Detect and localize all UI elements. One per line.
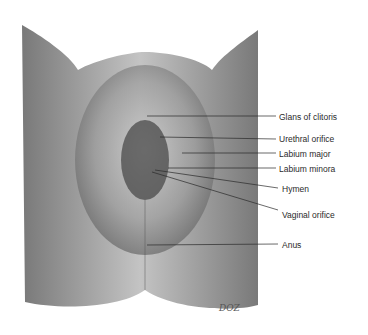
central-region (121, 120, 169, 200)
artist-signature: DOZ (219, 303, 240, 313)
label-labium-major: Labium major (279, 149, 331, 159)
label-labium-minora: Labium minora (279, 164, 335, 174)
label-urethral-orifice: Urethral orifice (279, 134, 334, 144)
label-vaginal-orifice: Vaginal orifice (282, 210, 335, 220)
label-hymen: Hymen (282, 184, 309, 194)
label-anus: Anus (282, 240, 301, 250)
label-glans-of-clitoris: Glans of clitoris (279, 112, 337, 122)
